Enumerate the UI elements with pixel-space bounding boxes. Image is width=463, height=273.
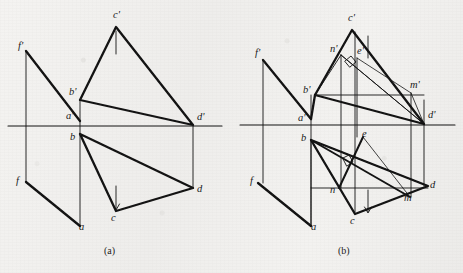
label-m-prime-b: m'	[410, 80, 420, 91]
label-e-b: e	[362, 129, 367, 140]
figure-b-geometry	[240, 30, 455, 226]
label-n-b: n	[330, 185, 335, 196]
label-d-b: d	[430, 180, 435, 191]
label-n-prime-b: n'	[330, 44, 338, 55]
right-angle-marker-upper-b	[345, 56, 356, 67]
label-f-b: f	[250, 176, 253, 187]
label-m-b: m	[404, 193, 412, 204]
caption-figure-b: (b)	[338, 245, 350, 256]
aux-b-d-b	[311, 140, 428, 186]
edge-b-prime-n-prime-b	[315, 55, 341, 95]
figure-b-canvas	[0, 0, 463, 273]
label-c-prime-b: c'	[348, 13, 355, 24]
label-a-b: a	[311, 222, 316, 233]
edge-f-a-b	[258, 183, 311, 226]
edge-a-b-prime-b	[311, 95, 315, 119]
label-e-prime-b: e'	[357, 46, 364, 57]
label-f-prime-b: f'	[255, 48, 260, 59]
label-c-b: c	[350, 216, 355, 227]
label-b-prime-b: b'	[303, 85, 311, 96]
drawing-page: f' c' b' a' d' b f d c a (a)	[0, 0, 463, 273]
label-d-prime-b: d'	[428, 110, 436, 121]
label-a-prime-b: a'	[298, 113, 306, 124]
label-b-b: b	[301, 133, 306, 144]
